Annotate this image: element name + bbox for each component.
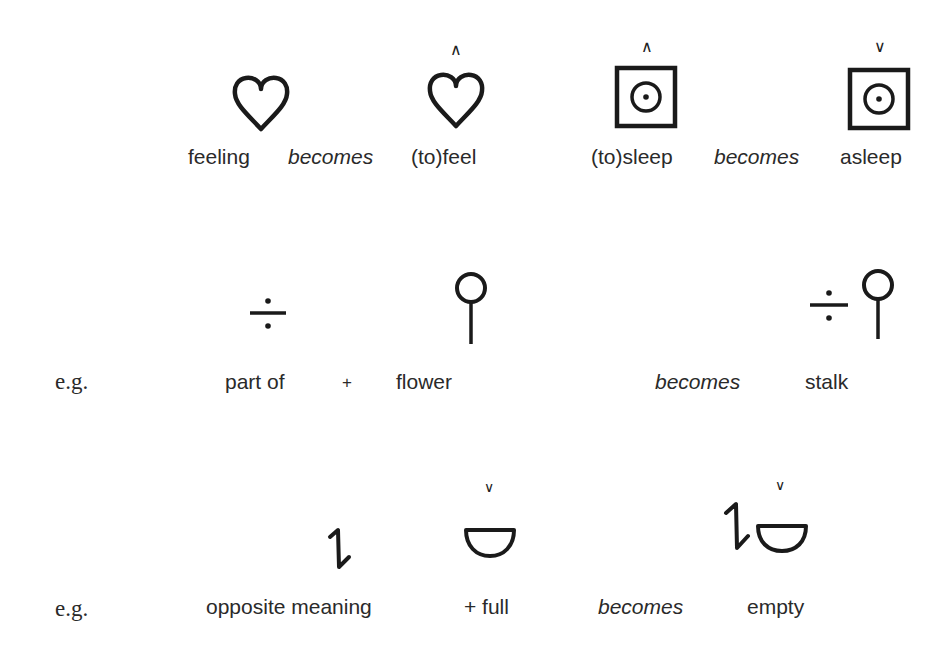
opposite-zigzag-icon	[325, 527, 355, 579]
becomes-label: becomes	[288, 146, 373, 167]
eg-label: e.g.	[55, 597, 88, 620]
eg-label: e.g.	[55, 370, 88, 393]
part1-label: opposite meaning	[206, 596, 372, 617]
becomes-label: becomes	[655, 371, 740, 392]
empty-combined-icon	[720, 498, 812, 556]
heart-icon	[426, 70, 486, 130]
bowl-icon	[462, 526, 518, 560]
stalk-combined-icon	[806, 265, 902, 345]
part1-label: part of	[225, 371, 285, 392]
sleep-box-icon	[847, 67, 911, 131]
becomes-label: becomes	[714, 146, 799, 167]
plus-label: +	[342, 374, 352, 391]
part2_label: flower	[396, 371, 452, 392]
sleep-box-icon	[614, 65, 678, 129]
result-label: empty	[747, 596, 804, 617]
indicator-caret-down: ∨	[484, 480, 494, 494]
source-label: feeling	[188, 146, 250, 167]
heart-icon	[231, 73, 291, 133]
division-sign-icon	[246, 291, 290, 335]
indicator-caret-down: ∨	[874, 39, 886, 55]
result-label: (to)feel	[411, 146, 476, 167]
part2-label: + full	[464, 596, 509, 617]
indicator-caret-up: ∧	[450, 42, 462, 58]
result-label: stalk	[805, 371, 848, 392]
flower-icon	[451, 270, 491, 346]
indicator-caret-up: ∧	[641, 39, 653, 55]
result-label: asleep	[840, 146, 902, 167]
becomes-label: becomes	[598, 596, 683, 617]
source-label: (to)sleep	[591, 146, 673, 167]
indicator-caret-down: ∨	[775, 478, 785, 492]
